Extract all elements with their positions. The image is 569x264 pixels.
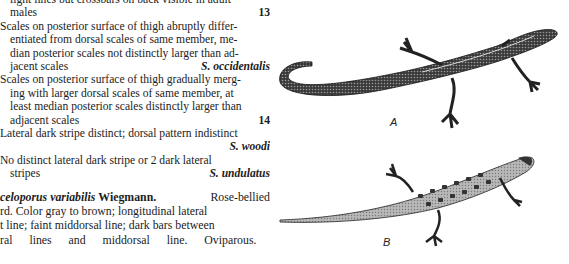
- identification-key: light lines but crossbars on back visibl…: [0, 0, 270, 180]
- lizard-b-illustration: [278, 148, 548, 248]
- key-line-text: entiated from dorsal scales of same memb…: [10, 33, 237, 46]
- description-line: ral lines and middorsal line. Oviparous.: [0, 233, 270, 247]
- key-line: adjacent scales14: [0, 114, 270, 127]
- key-line: ing with larger dorsal scales of same me…: [0, 87, 270, 100]
- key-couplet-ref: 14: [258, 114, 270, 127]
- key-species-name: S. woodi: [229, 140, 270, 153]
- key-line-text: males: [10, 6, 37, 19]
- key-line-text: Lateral dark stripe distinct; dorsal pat…: [0, 127, 238, 140]
- key-line: jacent scalesS. occidentalis: [0, 60, 270, 73]
- key-line-text: ing with larger dorsal scales of same me…: [10, 87, 234, 100]
- key-line-text: jacent scales: [10, 60, 68, 73]
- key-line: Lateral dark stripe distinct; dorsal pat…: [0, 127, 270, 140]
- key-species-name: S. occidentalis: [201, 60, 270, 73]
- species-description: celoporus variabilis Wiegmann. Rose-bell…: [0, 190, 270, 247]
- description-line: t line; faint middorsal line; dark bars …: [0, 218, 270, 232]
- figure-b-label: B: [383, 236, 390, 248]
- book-page: light lines but crossbars on back visibl…: [0, 0, 569, 264]
- figure-a-label: A: [390, 116, 397, 128]
- key-line-text: No distinct lateral dark stripe or 2 dar…: [0, 154, 212, 167]
- key-line: S. woodi: [0, 140, 270, 153]
- key-line-text: Scales on posterior surface of thigh abr…: [0, 20, 237, 33]
- key-line: entiated from dorsal scales of same memb…: [0, 33, 270, 46]
- key-line-text: Scales on posterior surface of thigh gra…: [0, 73, 241, 86]
- key-line: males13: [0, 6, 270, 19]
- key-line: dian posterior scales not distinctly lar…: [0, 47, 270, 60]
- key-couplet-ref: 13: [258, 6, 270, 19]
- key-line: stripesS. undulatus: [0, 167, 270, 180]
- lizard-a-illustration: [272, 10, 567, 140]
- key-species-name: S. undulatus: [209, 167, 270, 180]
- key-line-text: adjacent scales: [10, 114, 79, 127]
- genus-name: celoporus: [0, 190, 47, 204]
- key-line: Scales on posterior surface of thigh gra…: [0, 73, 270, 86]
- key-line: least median posterior scales distinctly…: [0, 100, 270, 113]
- key-line-text: light lines but crossbars on back visibl…: [10, 0, 231, 6]
- species-name: variabilis: [50, 190, 95, 204]
- description-line: rd. Color gray to brown; longitudinal la…: [0, 204, 270, 218]
- description-line: celoporus variabilis Wiegmann. Rose-bell…: [0, 190, 270, 204]
- author-name: Wiegmann.: [98, 190, 156, 204]
- key-line: No distinct lateral dark stripe or 2 dar…: [0, 154, 270, 167]
- key-line-text: dian posterior scales not distinctly lar…: [10, 47, 239, 60]
- key-line-text: least median posterior scales distinctly…: [10, 100, 242, 113]
- common-name: Rose-bellied: [210, 190, 270, 204]
- key-line: Scales on posterior surface of thigh abr…: [0, 20, 270, 33]
- key-line-text: stripes: [10, 167, 40, 180]
